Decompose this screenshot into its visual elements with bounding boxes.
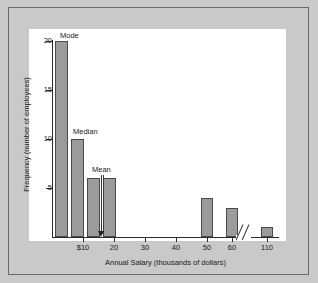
- y-tick-label-20: 20: [30, 37, 52, 45]
- mean-arrow-icon: [98, 231, 104, 237]
- y-tick-label-15: 15: [30, 86, 52, 94]
- annotation-mode: Mode: [60, 31, 79, 40]
- chart-plot: 20 15 10 5 $10 20 30 40 50 60 110: [0, 0, 318, 283]
- bar-4: [103, 178, 116, 237]
- y-tick-label-5: 5: [30, 184, 52, 192]
- annotation-mean: Mean: [92, 165, 111, 174]
- bar-mode: [55, 41, 68, 237]
- y-axis-line: [52, 40, 53, 238]
- x-tick-label-110: 110: [247, 243, 287, 252]
- x-tick-20: [114, 237, 115, 242]
- axis-break-icon: [235, 224, 253, 242]
- x-axis-title: Annual Salary (thousands of dollars): [52, 258, 279, 267]
- x-tick-10: [83, 237, 84, 242]
- bar-median: [71, 139, 84, 237]
- annotation-median: Median: [73, 127, 98, 136]
- y-axis-title: Frequency (number of employees): [22, 60, 31, 210]
- bar-110: [261, 227, 273, 237]
- y-tick-label-10: 10: [30, 135, 52, 143]
- figure: 20 15 10 5 $10 20 30 40 50 60 110: [0, 0, 318, 283]
- x-tick-60: [232, 237, 233, 242]
- mean-pointer-line: [101, 175, 104, 233]
- x-tick-label-60: 60: [212, 243, 252, 252]
- x-tick-40: [176, 237, 177, 242]
- x-tick-110: [267, 237, 268, 242]
- bar-3: [87, 178, 100, 237]
- x-tick-30: [145, 237, 146, 242]
- bar-50: [201, 198, 213, 237]
- x-tick-50: [207, 237, 208, 242]
